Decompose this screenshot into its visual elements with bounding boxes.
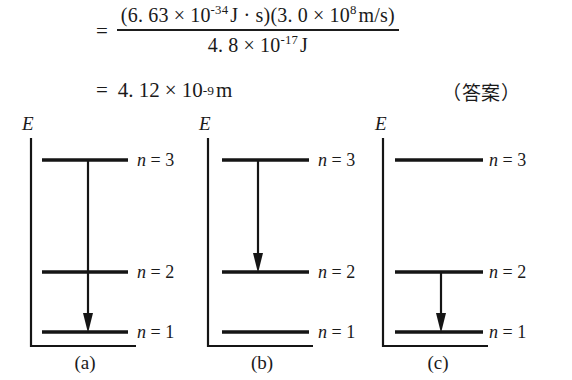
numerator-factor2-exponent: 8 [350, 3, 357, 17]
denominator-base: 10 [260, 34, 280, 56]
numerator-factor1-exponent: -34 [211, 3, 229, 17]
diagram-caption-b: (b) [251, 352, 273, 374]
transition-arrow-head [83, 313, 93, 333]
equation-block: = (6. 63×10-34J · s)(3. 0×108m/s) 4. 8×1… [0, 0, 572, 112]
level-label-n2: n = 2 [489, 262, 526, 282]
level-label-n2: n = 2 [318, 262, 355, 282]
numerator-factor1-open-paren: ( [121, 4, 128, 26]
axis-label-E: E [374, 113, 387, 134]
numerator-factor2-mantissa: 3. 0 [277, 4, 308, 26]
numerator-factor1-unit: J · s [230, 4, 263, 26]
level-label-n3: n = 3 [318, 150, 355, 170]
denominator-exponent: -17 [280, 33, 298, 47]
axis-label-E: E [21, 113, 34, 134]
denominator-unit: J [300, 34, 308, 56]
level-label-n3: n = 3 [137, 150, 174, 170]
numerator-factor1-times: × [174, 4, 185, 26]
denominator-times: × [244, 34, 255, 56]
numerator-factor1-base: 10 [190, 4, 210, 26]
numerator-factor2-close-paren: ) [388, 4, 395, 26]
result-equals-sign: = [96, 78, 108, 103]
level-label-n1: n = 1 [489, 322, 526, 342]
equation-fraction-line: = (6. 63×10-34J · s)(3. 0×108m/s) 4. 8×1… [96, 4, 399, 57]
numerator-factor2-unit: m/s [359, 4, 389, 26]
answer-note: （答案） [442, 78, 520, 105]
numerator-factor2-times: × [313, 4, 324, 26]
level-label-n3: n = 3 [489, 150, 526, 170]
equation-equals-sign: = [96, 19, 108, 44]
axis-label-E: E [198, 113, 211, 134]
level-label-n1: n = 1 [137, 322, 174, 342]
result-times: × [165, 78, 177, 103]
equation-result-line: =4. 12×10-9m [96, 78, 232, 103]
numerator-factor1-mantissa: 6. 63 [128, 4, 169, 26]
result-base: 10 [182, 78, 203, 103]
transition-arrow-head [436, 313, 446, 333]
result-unit: m [216, 78, 232, 103]
diagram-caption-a: (a) [74, 352, 95, 374]
transition-arrow-head [253, 253, 263, 273]
fraction: (6. 63×10-34J · s)(3. 0×108m/s) 4. 8×10-… [117, 4, 399, 57]
fraction-denominator: 4. 8×10-17J [204, 31, 312, 57]
diagram-caption-c: (c) [427, 352, 448, 374]
fraction-numerator: (6. 63×10-34J · s)(3. 0×108m/s) [117, 4, 399, 29]
denominator-mantissa: 4. 8 [208, 34, 239, 56]
energy-level-diagrams: E n = 3 n = 2 n = 1 (a) E n = 3 n [0, 112, 572, 380]
result-mantissa: 4. 12 [118, 78, 160, 103]
energy-level-diagram-c: E n = 3 n = 2 n = 1 (c) [355, 112, 545, 380]
numerator-factor2-base: 10 [330, 4, 350, 26]
level-label-n1: n = 1 [318, 322, 355, 342]
energy-level-diagram-a: E n = 3 n = 2 n = 1 (a) [0, 112, 190, 380]
energy-level-diagram-b: E n = 3 n = 2 n = 1 (b) [179, 112, 369, 380]
level-label-n2: n = 2 [137, 262, 174, 282]
